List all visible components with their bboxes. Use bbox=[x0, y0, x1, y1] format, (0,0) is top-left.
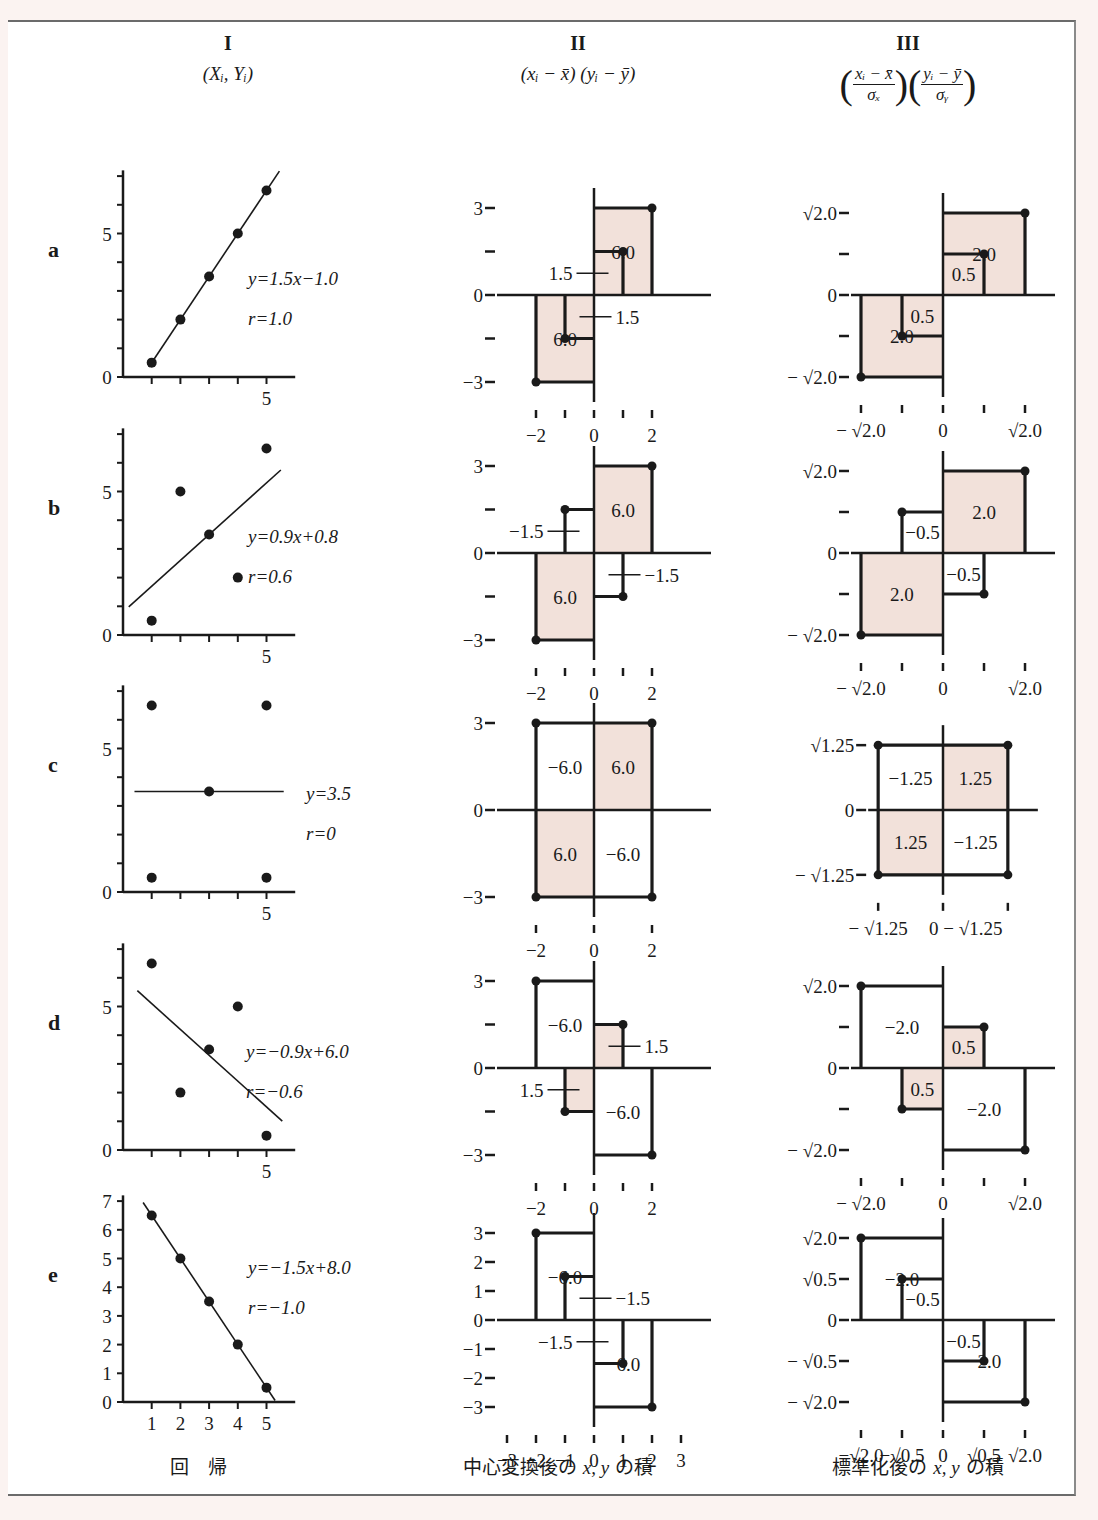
y-tick-label: √2.0 bbox=[803, 203, 837, 224]
x-tick-label: 2 bbox=[647, 1450, 657, 1471]
product-value-label: 6.0 bbox=[553, 844, 577, 865]
y-tick-label: − √2.0 bbox=[787, 625, 837, 646]
y-tick-label: 0 bbox=[827, 543, 837, 564]
data-point bbox=[648, 893, 657, 902]
centered-product-plot-c: 6.0−6.06.0−6.030−3−202 bbox=[418, 692, 738, 952]
product-value-label: −0.5 bbox=[905, 522, 939, 543]
centered-product-plot-e: −6.0−1.5−1.5−6.03210−1−2−3−3−2−10123 bbox=[418, 1202, 738, 1462]
data-point bbox=[233, 1002, 243, 1012]
data-point bbox=[619, 592, 628, 601]
regression-equation: y=−0.9x+6.0 bbox=[244, 1041, 349, 1062]
y-tick-label: 0 bbox=[845, 800, 855, 821]
data-point bbox=[648, 1403, 657, 1412]
x-tick-label: 5 bbox=[262, 646, 272, 667]
scatter-plot-c: 055y=3.5r=0 bbox=[68, 682, 388, 932]
data-point bbox=[897, 1274, 906, 1283]
data-point bbox=[532, 378, 541, 387]
y-tick-label: 5 bbox=[102, 224, 112, 245]
product-value-label: −1.5 bbox=[616, 1288, 650, 1309]
column-header-2: II (xᵢ − x̄) (yᵢ − ȳ) bbox=[478, 32, 678, 85]
data-point bbox=[561, 505, 570, 514]
column-numeral: III bbox=[808, 32, 1008, 55]
y-tick-label: 5 bbox=[102, 1249, 112, 1270]
product-value-label: 2.0 bbox=[890, 584, 914, 605]
y-tick-label: 3 bbox=[474, 971, 484, 992]
scatter-plot-a: 055y=1.5x−1.0r=1.0 bbox=[68, 167, 388, 417]
row-label-b: b bbox=[48, 495, 60, 521]
data-point bbox=[619, 1020, 628, 1029]
y-tick-label: 0 bbox=[102, 1392, 112, 1413]
y-tick-label: 4 bbox=[102, 1277, 112, 1298]
data-point bbox=[856, 631, 865, 640]
standardized-product-plot-a: 2.00.50.52.0√2.00− √2.0− √2.00√2.0 bbox=[728, 177, 1078, 437]
data-point bbox=[204, 1297, 214, 1307]
product-value-label: −2.0 bbox=[885, 1017, 919, 1038]
product-value-label: −1.25 bbox=[953, 832, 997, 853]
data-point bbox=[233, 1340, 243, 1350]
data-point bbox=[980, 590, 989, 599]
product-value-label: −6.0 bbox=[548, 1015, 582, 1036]
data-point bbox=[532, 1229, 541, 1238]
product-value-label: 0.5 bbox=[952, 1037, 976, 1058]
correlation-value: r=0 bbox=[306, 823, 336, 844]
data-point bbox=[147, 700, 157, 710]
y-tick-label: 0 bbox=[474, 800, 484, 821]
data-point bbox=[204, 787, 214, 797]
data-point bbox=[262, 700, 272, 710]
y-tick-label: 5 bbox=[102, 482, 112, 503]
y-tick-label: √1.25 bbox=[810, 735, 854, 756]
data-point bbox=[897, 507, 906, 516]
data-point bbox=[262, 1383, 272, 1393]
x-tick-label: −3 bbox=[497, 1450, 517, 1471]
x-tick-label: 5 bbox=[262, 388, 272, 409]
column-numeral: I bbox=[158, 32, 298, 55]
data-point bbox=[856, 981, 865, 990]
data-point bbox=[980, 1022, 989, 1031]
y-tick-label: √0.5 bbox=[803, 1269, 837, 1290]
product-value-label: 0.5 bbox=[911, 306, 935, 327]
x-tick-label: 2 bbox=[176, 1413, 186, 1434]
product-value-label: 1.5 bbox=[549, 263, 573, 284]
data-point bbox=[532, 719, 541, 728]
standardized-product-plot-c: 1.25−1.251.25−1.25√1.250− √1.25− √1.250 … bbox=[728, 692, 1078, 952]
y-tick-label: 0 bbox=[474, 543, 484, 564]
data-point bbox=[1003, 741, 1012, 750]
correlation-value: r=0.6 bbox=[248, 566, 292, 587]
data-point bbox=[1003, 870, 1012, 879]
data-point bbox=[147, 958, 157, 968]
y-tick-label: 0 bbox=[827, 1310, 837, 1331]
data-point bbox=[262, 873, 272, 883]
product-value-label: −6.0 bbox=[606, 844, 640, 865]
footer-regression-label: 回 帰 bbox=[108, 1452, 288, 1479]
x-tick-label: 5 bbox=[262, 1161, 272, 1182]
y-tick-label: 0 bbox=[102, 882, 112, 903]
x-tick-label: 0 bbox=[589, 1450, 599, 1471]
x-tick-label: 5 bbox=[262, 903, 272, 924]
centered-product-plot-d: −6.01.51.5−6.030−3−202 bbox=[418, 950, 738, 1210]
y-tick-label: −3 bbox=[463, 887, 483, 908]
standardized-product-plot-e: −2.0−0.5−0.5−2.0√2.0√0.50− √0.5− √2.0−√2… bbox=[728, 1202, 1078, 1462]
correlation-value: r=−1.0 bbox=[248, 1297, 305, 1318]
data-point bbox=[561, 1107, 570, 1116]
data-point bbox=[532, 636, 541, 645]
fraction-denominator: σₓ bbox=[867, 85, 880, 105]
product-value-label: −6.0 bbox=[606, 1354, 640, 1375]
product-value-label: −0.5 bbox=[946, 1331, 980, 1352]
y-tick-label: √2.0 bbox=[803, 461, 837, 482]
x-tick-label: 0 − √1.25 bbox=[929, 918, 1002, 939]
data-point bbox=[204, 1045, 214, 1055]
y-tick-label: 7 bbox=[102, 1191, 112, 1212]
data-point bbox=[175, 1254, 185, 1264]
x-tick-label: √0.5 bbox=[967, 1445, 1001, 1466]
x-tick-label: −2 bbox=[526, 1450, 546, 1471]
data-point bbox=[1021, 208, 1030, 217]
y-tick-label: − √2.0 bbox=[787, 1392, 837, 1413]
y-tick-label: 1 bbox=[474, 1281, 484, 1302]
column-header-1: I (Xᵢ, Yᵢ) bbox=[158, 32, 298, 85]
product-value-label: −2.0 bbox=[967, 1099, 1001, 1120]
row-label-a: a bbox=[48, 237, 59, 263]
standardized-product-plot-b: 2.0−0.5−0.52.0√2.00− √2.0− √2.00√2.0 bbox=[728, 435, 1078, 695]
y-tick-label: −2 bbox=[463, 1368, 483, 1389]
product-value-label: 1.25 bbox=[959, 768, 992, 789]
y-tick-label: − √2.0 bbox=[787, 1140, 837, 1161]
